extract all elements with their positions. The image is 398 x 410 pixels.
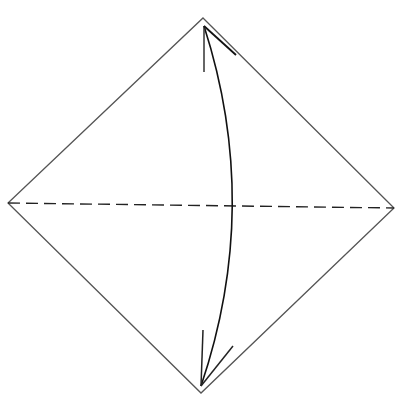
valley-fold-line [8,203,394,208]
arrowhead-top-icon [204,26,236,72]
origami-diagram [0,0,398,410]
paper-square [8,18,394,393]
diagram-canvas [0,0,398,410]
